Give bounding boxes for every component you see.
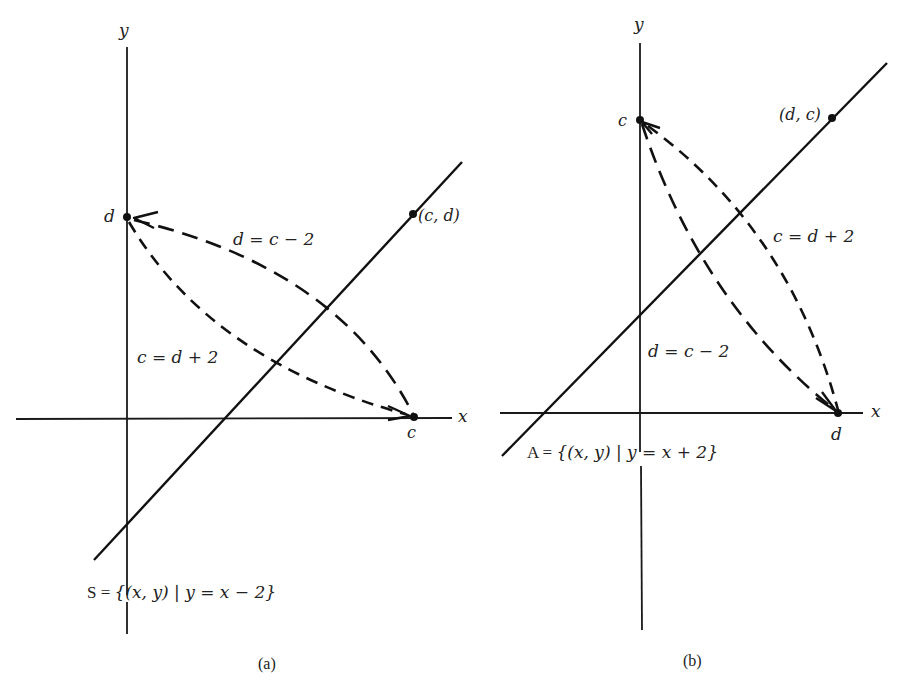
set-label-s-prefix: S =	[87, 583, 115, 602]
panel-b: y x c d (d, c) c = d + 2 d = c − 2 A = {…	[500, 14, 887, 670]
panel-a: y x d c (c, d) d = c − 2 c = d + 2 S = {…	[16, 20, 468, 673]
point-cd-label: (c, d)	[418, 206, 460, 225]
point-d-b	[834, 409, 842, 417]
curve-d-eq-c-minus-2-b	[642, 124, 830, 406]
curve-label-c-eq-d-plus-2-b: c = d + 2	[773, 226, 854, 246]
caption-b: (b)	[683, 652, 702, 670]
point-d-a	[123, 213, 131, 221]
y-axis-b-tail	[641, 466, 642, 630]
x-axis-label-a: x	[458, 406, 468, 426]
point-cd	[409, 210, 417, 218]
point-c-a	[410, 413, 418, 421]
arrowhead-to-d-a	[134, 212, 158, 228]
set-label-s: S = {(x, y) | y = x − 2}	[87, 582, 276, 602]
y-axis-label-b: y	[633, 14, 644, 34]
point-dc	[828, 114, 836, 122]
y-axis-label-a: y	[118, 20, 129, 40]
point-d-label-a: d	[104, 206, 115, 226]
line-a	[502, 63, 887, 456]
curve-label-d-eq-c-minus-2-b: d = c − 2	[648, 341, 729, 361]
curve-c-eq-d-plus-2-a	[129, 222, 405, 414]
caption-a: (a)	[258, 655, 276, 673]
point-c-label-a: c	[407, 423, 416, 442]
set-label-a: A = {(x, y) | y = x + 2}	[527, 442, 718, 462]
point-c-label-b: c	[618, 111, 627, 130]
curve-label-d-eq-c-minus-2-a: d = c − 2	[233, 229, 314, 249]
set-label-a-expr: {(x, y) | y = x + 2}	[556, 442, 718, 462]
point-c-b	[636, 116, 644, 124]
curve-label-c-eq-d-plus-2-a: c = d + 2	[137, 347, 218, 367]
point-dc-label: (d, c)	[779, 105, 821, 124]
x-axis-label-b: x	[871, 401, 881, 421]
point-d-label-b: d	[831, 424, 842, 444]
curve-c-eq-d-plus-2-b	[648, 126, 838, 410]
curve-d-eq-c-minus-2-a	[134, 220, 414, 416]
figure-canvas: y x d c (c, d) d = c − 2 c = d + 2 S = {…	[0, 0, 897, 696]
set-label-s-expr: {(x, y) | y = x − 2}	[115, 582, 277, 602]
x-axis-a	[16, 418, 452, 419]
set-label-a-prefix: A =	[527, 443, 556, 462]
